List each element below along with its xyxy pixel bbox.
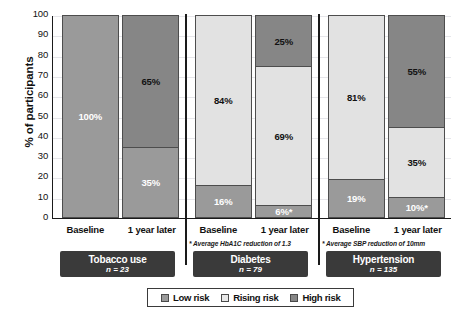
bar-segment-label: 81% [347,92,365,103]
x-axis-category-label: 1 year later [252,224,319,235]
y-axis-tick-label: 100 [14,9,48,19]
x-axis-category-label: Baseline [318,224,385,235]
bar-diabetes-1-year-later: 25%69%6%* [255,15,312,218]
bar-segment-label: 35% [142,177,160,188]
bar-segment: 35% [123,147,178,217]
bar-segment: 19% [329,179,384,217]
y-axis-tick-label: 20 [14,172,48,182]
bar-segment: 35% [389,127,444,197]
legend-label: High risk [302,292,340,303]
bar-segment: 65% [123,16,178,147]
y-axis-tick-label: 70 [14,70,48,80]
legend-item-rising-risk: Rising risk [221,292,278,303]
y-axis-tick-label: 0 [14,212,48,222]
group-badge-count: n = 79 [193,265,308,275]
bar-tobacco-use-baseline: 100% [62,15,119,218]
group-footnote: * Average HbA1C reduction of 1.3 [189,240,322,247]
y-axis-tick-label: 90 [14,30,48,40]
group-badge-hypertension: Hypertensionn = 135 [326,251,441,277]
legend-label: Rising risk [233,292,278,303]
bar-segment-label: 16% [214,196,232,207]
y-axis-ticks: 1009080706050403020100 [14,14,48,219]
legend-item-low-risk: Low risk [161,292,209,303]
group-badge-title: Diabetes [193,254,308,265]
bar-segment: 84% [196,16,251,185]
group-badge-tobacco-use: Tobacco usen = 23 [60,251,175,277]
group-badge-title: Tobacco use [60,254,175,265]
y-axis-tick-label: 10 [14,192,48,202]
stacked-bar-chart: % of participants 1009080706050403020100… [0,0,462,318]
group-badge-title: Hypertension [326,254,441,265]
bar-segment: 55% [389,16,444,127]
bar-segment-label: 6%* [275,206,292,217]
bar-segment: 69% [256,66,311,205]
bar-diabetes-baseline: 84%16% [195,15,252,218]
bar-segment-label: 55% [408,66,426,77]
bar-segment-label: 84% [214,95,232,106]
y-axis-tick-label: 60 [14,90,48,100]
legend-swatch-icon [290,294,298,302]
bar-segment: 25% [256,16,311,66]
bar-hypertension-1-year-later: 55%35%10%* [388,15,445,218]
y-axis-tick-label: 40 [14,131,48,141]
bar-segment-label: 25% [275,36,293,47]
y-axis-tick-label: 50 [14,111,48,121]
bar-segment-label: 10%* [406,202,428,213]
bar-segment-label: 69% [275,131,293,142]
bar-segment-label: 100% [79,111,103,122]
bar-segment: 100% [63,16,118,217]
bar-segment-label: 35% [408,157,426,168]
legend-item-high-risk: High risk [290,292,340,303]
bar-segment-label: 19% [347,193,365,204]
bar-segment: 81% [329,16,384,179]
x-axis-category-label: Baseline [185,224,252,235]
group-footnote: * Average SBP reduction of 10mm [322,240,455,247]
bar-segment: 10%* [389,197,444,217]
group-badge-diabetes: Diabetesn = 79 [193,251,308,277]
group-badge-count: n = 23 [60,265,175,275]
y-axis-tick-label: 80 [14,50,48,60]
x-axis-category-label: 1 year later [385,224,452,235]
bar-hypertension-baseline: 81%19% [328,15,385,218]
group-badge-count: n = 135 [326,265,441,275]
x-axis-category-label: 1 year later [119,224,186,235]
legend-swatch-icon [161,294,169,302]
legend-label: Low risk [173,292,209,303]
bar-tobacco-use-1-year-later: 65%35% [122,15,179,218]
bar-segment: 6%* [256,205,311,217]
x-axis-category-label: Baseline [52,224,119,235]
chart-legend: Low riskRising riskHigh risk [147,288,354,307]
bar-segment: 16% [196,185,251,217]
bar-segment-label: 65% [142,76,160,87]
plot-area: 100%65%35%84%16%25%69%6%*81%19%55%35%10%… [52,16,451,219]
y-axis-tick-label: 30 [14,151,48,161]
legend-swatch-icon [221,294,229,302]
